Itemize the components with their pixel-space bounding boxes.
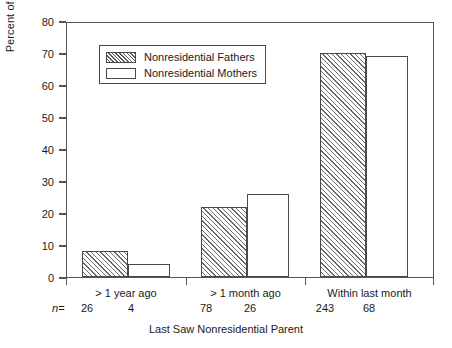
legend-label-mothers: Nonresidential Mothers — [144, 67, 257, 79]
bar-mothers-gt-1-month — [247, 194, 289, 277]
y-tick-label-20: 20 — [32, 208, 54, 220]
y-tick-mark-10 — [59, 245, 66, 246]
y-tick-60: 60 — [0, 80, 66, 92]
y-tick-label-60: 60 — [32, 80, 54, 92]
y-tick-label-40: 40 — [32, 144, 54, 156]
bar-mothers-within-last-month — [366, 56, 408, 277]
x-axis-title: Last Saw Nonresidential Parent — [0, 322, 452, 336]
n-value-fathers-within-last-month: 243 — [302, 301, 348, 315]
y-tick-label-0: 0 — [32, 272, 54, 284]
y-tick-mark-30 — [59, 181, 66, 182]
legend-item-fathers: Nonresidential Fathers — [106, 50, 259, 64]
y-tick-10: 10 — [0, 240, 66, 252]
legend-label-fathers: Nonresidential Fathers — [144, 51, 255, 63]
x-group-label-gt-1-year: > 1 year ago — [66, 286, 186, 300]
legend-item-mothers: Nonresidential Mothers — [106, 66, 259, 80]
y-tick-mark-80 — [59, 21, 66, 22]
bar-mothers-gt-1-year — [128, 264, 170, 277]
x-tick-boundary-3 — [433, 278, 434, 285]
legend-swatch-white-icon — [106, 68, 136, 79]
y-tick-mark-50 — [59, 117, 66, 118]
legend-swatch-hatched-icon — [106, 52, 136, 63]
x-tick-boundary-2 — [305, 278, 306, 285]
y-tick-0: 0 — [0, 272, 66, 284]
y-tick-40: 40 — [0, 144, 66, 156]
x-group-label-within-last-month: Within last month — [305, 286, 434, 300]
x-tick-boundary-1 — [186, 278, 187, 285]
x-tick-boundary-0 — [66, 278, 67, 285]
y-tick-50: 50 — [0, 112, 66, 124]
bar-chart-figure: Percent of Adolescents 80 70 60 50 40 30… — [0, 0, 452, 348]
bar-fathers-within-last-month — [320, 53, 366, 277]
y-tick-30: 30 — [0, 176, 66, 188]
y-tick-20: 20 — [0, 208, 66, 220]
legend: Nonresidential Fathers Nonresidential Mo… — [99, 45, 266, 84]
y-tick-label-70: 70 — [32, 48, 54, 60]
n-value-mothers-gt-1-month: 26 — [229, 301, 271, 315]
bar-fathers-gt-1-month — [201, 207, 247, 277]
y-tick-label-30: 30 — [32, 176, 54, 188]
bar-fathers-gt-1-year — [82, 251, 128, 277]
y-tick-mark-40 — [59, 149, 66, 150]
y-axis-ticks: 80 70 60 50 40 30 20 10 — [0, 0, 66, 278]
y-tick-label-80: 80 — [32, 16, 54, 28]
y-tick-label-10: 10 — [32, 240, 54, 252]
n-value-fathers-gt-1-month: 78 — [183, 301, 229, 315]
y-tick-80: 80 — [0, 16, 66, 28]
n-value-mothers-within-last-month: 68 — [348, 301, 390, 315]
y-tick-70: 70 — [0, 48, 66, 60]
y-tick-label-50: 50 — [32, 112, 54, 124]
y-tick-mark-60 — [59, 85, 66, 86]
y-tick-mark-70 — [59, 53, 66, 54]
y-tick-mark-20 — [59, 213, 66, 214]
n-value-fathers-gt-1-year: 26 — [64, 301, 110, 315]
n-row-label: n= — [52, 301, 65, 315]
x-group-label-gt-1-month: > 1 month ago — [186, 286, 305, 300]
n-value-mothers-gt-1-year: 4 — [110, 301, 152, 315]
y-tick-mark-0 — [59, 277, 66, 278]
